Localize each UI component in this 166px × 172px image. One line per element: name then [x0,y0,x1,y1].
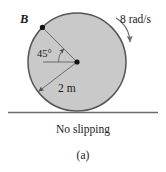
radius-label: 2 m [58,83,76,95]
figure-caption: (a) [0,150,166,162]
angular-velocity-label: 8 rad/s [120,14,151,26]
center-point-marker [74,59,79,64]
point-b-label: B [20,13,28,26]
angle-label: 45° [37,49,52,60]
rolling-disk-figure: B 45° 2 m 8 rad/s No slipping (a) [0,0,166,172]
point-b-marker [40,25,45,30]
no-slipping-label: No slipping [0,124,166,136]
